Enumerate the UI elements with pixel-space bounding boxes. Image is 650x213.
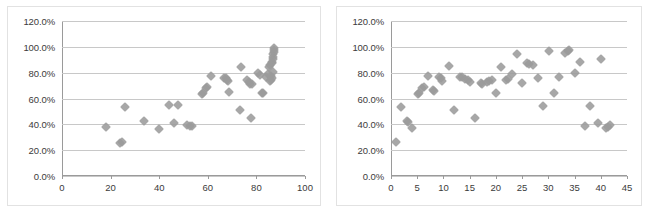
x-axis-tick-label: 30 bbox=[543, 182, 554, 193]
x-axis-tick-label: 20 bbox=[491, 182, 502, 193]
x-axis-tick-label: 25 bbox=[517, 182, 528, 193]
x-axis-tick-label: 5 bbox=[415, 182, 420, 193]
left-chart-plot-wrap: 0.0%20.0%40.0%60.0%80.0%100.0%120.0% 020… bbox=[8, 7, 320, 205]
right-chart-plot-wrap: 0.0%20.0%40.0%60.0%80.0%100.0%120.0% 051… bbox=[337, 7, 641, 205]
right-chart-x-axis-labels: 051015202530354045 bbox=[337, 7, 641, 205]
left-chart: 0.0%20.0%40.0%60.0%80.0%100.0%120.0% 020… bbox=[7, 6, 321, 206]
x-axis-tick-label: 60 bbox=[203, 182, 214, 193]
x-axis-tick-label: 35 bbox=[569, 182, 580, 193]
x-axis-tick-label: 40 bbox=[154, 182, 165, 193]
scatter-plot-pair: 0.0%20.0%40.0%60.0%80.0%100.0%120.0% 020… bbox=[0, 0, 650, 213]
x-axis-tick-label: 80 bbox=[251, 182, 262, 193]
x-axis-tick-label: 15 bbox=[464, 182, 475, 193]
x-axis-tick-label: 10 bbox=[438, 182, 449, 193]
right-chart: 0.0%20.0%40.0%60.0%80.0%100.0%120.0% 051… bbox=[336, 6, 642, 206]
x-axis-tick-label: 45 bbox=[622, 182, 633, 193]
x-axis-tick-label: 40 bbox=[595, 182, 606, 193]
x-axis-tick-label: 100 bbox=[297, 182, 313, 193]
left-chart-x-axis-labels: 020406080100 bbox=[8, 7, 320, 205]
x-axis-tick-label: 20 bbox=[105, 182, 116, 193]
x-axis-tick-label: 0 bbox=[388, 182, 393, 193]
x-axis-tick-label: 0 bbox=[59, 182, 64, 193]
